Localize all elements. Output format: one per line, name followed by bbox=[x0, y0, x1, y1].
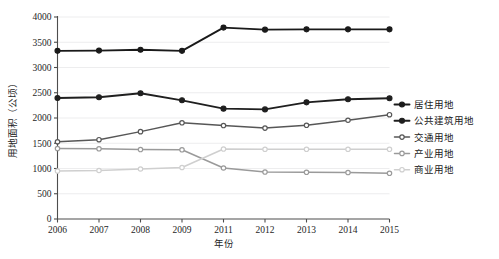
data-point bbox=[221, 147, 225, 151]
data-point bbox=[263, 147, 267, 151]
y-tick-label: 500 bbox=[37, 189, 52, 199]
data-point bbox=[263, 107, 268, 112]
data-point bbox=[304, 100, 309, 105]
x-tick-label: 2009 bbox=[173, 225, 192, 235]
data-point bbox=[263, 27, 268, 32]
y-tick-label: 0 bbox=[47, 214, 52, 224]
data-point bbox=[180, 98, 185, 103]
x-tick-label: 2007 bbox=[90, 225, 109, 235]
data-point bbox=[346, 27, 351, 32]
legend-swatch-marker bbox=[400, 168, 404, 172]
data-point bbox=[387, 27, 392, 32]
data-point bbox=[304, 27, 309, 32]
data-point bbox=[387, 113, 391, 117]
y-tick-label: 1000 bbox=[33, 164, 52, 174]
x-tick-label: 2006 bbox=[48, 225, 67, 235]
data-point bbox=[263, 170, 267, 174]
x-axis-tick-labels: 200620072008200920112012201320142015 bbox=[48, 225, 399, 235]
x-tick-label: 2014 bbox=[339, 225, 358, 235]
x-axis-title: 年份 bbox=[214, 238, 234, 249]
y-tick-label: 3500 bbox=[33, 38, 52, 48]
data-point bbox=[221, 106, 226, 111]
data-point bbox=[221, 166, 225, 170]
data-point bbox=[304, 147, 308, 151]
data-point bbox=[55, 48, 60, 53]
y-tick-label: 3000 bbox=[33, 63, 52, 73]
legend-swatch-marker bbox=[400, 118, 405, 123]
data-point bbox=[97, 138, 101, 142]
data-point bbox=[138, 47, 143, 52]
x-tick-label: 2011 bbox=[214, 225, 233, 235]
data-point bbox=[180, 165, 184, 169]
data-point bbox=[304, 170, 308, 174]
data-point bbox=[138, 167, 142, 171]
data-point bbox=[346, 147, 350, 151]
data-point bbox=[97, 147, 101, 151]
legend-label: 产业用地 bbox=[414, 148, 454, 159]
data-point bbox=[55, 146, 59, 150]
legend-label: 居住用地 bbox=[414, 99, 454, 110]
data-point bbox=[180, 48, 185, 53]
data-point bbox=[138, 129, 142, 133]
x-tick-label: 2015 bbox=[380, 225, 399, 235]
legend-label: 商业用地 bbox=[414, 164, 454, 175]
y-tick-label: 2000 bbox=[33, 113, 52, 123]
data-point bbox=[263, 126, 267, 130]
y-tick-label: 1500 bbox=[33, 139, 52, 149]
data-point bbox=[55, 96, 60, 101]
data-point bbox=[97, 168, 101, 172]
data-point bbox=[138, 91, 143, 96]
data-point bbox=[97, 95, 102, 100]
legend-swatch-marker bbox=[400, 135, 404, 139]
data-point bbox=[221, 123, 225, 127]
x-tick-label: 2012 bbox=[256, 225, 275, 235]
chart-canvas: 05001000150020002500300035004000 2006200… bbox=[0, 0, 499, 259]
x-tick-label: 2013 bbox=[297, 225, 316, 235]
data-point bbox=[346, 170, 350, 174]
data-point bbox=[221, 25, 226, 30]
data-point bbox=[346, 97, 351, 102]
y-tick-label: 2500 bbox=[33, 88, 52, 98]
data-point bbox=[304, 123, 308, 127]
data-point bbox=[387, 171, 391, 175]
x-tick-label: 2008 bbox=[131, 225, 150, 235]
data-point bbox=[387, 147, 391, 151]
y-axis-title: 用地面积（公顷） bbox=[7, 78, 18, 158]
data-point bbox=[346, 118, 350, 122]
data-point bbox=[55, 140, 59, 144]
chart-background bbox=[0, 0, 499, 259]
data-point bbox=[180, 148, 184, 152]
legend-swatch-marker bbox=[400, 102, 405, 107]
legend-swatch-marker bbox=[400, 151, 404, 155]
land-use-line-chart: 05001000150020002500300035004000 2006200… bbox=[0, 0, 499, 259]
data-point bbox=[180, 121, 184, 125]
legend-label: 交通用地 bbox=[414, 132, 454, 143]
data-point bbox=[55, 169, 59, 173]
data-point bbox=[387, 96, 392, 101]
data-point bbox=[97, 48, 102, 53]
y-tick-label: 4000 bbox=[33, 12, 52, 22]
legend-label: 公共建筑用地 bbox=[414, 115, 474, 126]
data-point bbox=[138, 147, 142, 151]
